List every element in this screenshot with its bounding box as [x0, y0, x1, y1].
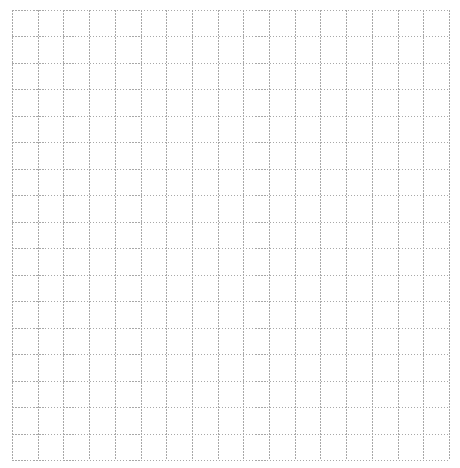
grid-canvas: [0, 0, 460, 468]
grid-lines: [12, 10, 450, 461]
dotted-grid: [0, 0, 460, 468]
